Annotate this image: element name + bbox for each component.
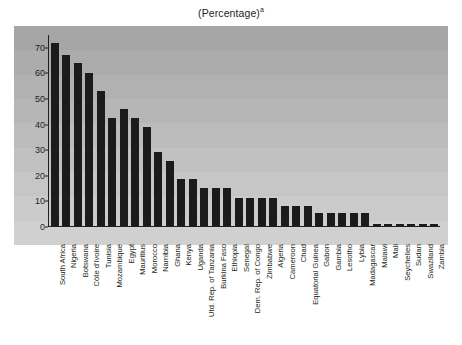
- x-axis-label-slot: Morocco: [141, 244, 153, 344]
- bar-slot: [291, 35, 303, 226]
- chart-figure: (Percentage)a 010203040506070 South Afri…: [0, 0, 462, 345]
- bar[interactable]: [338, 213, 346, 226]
- bar[interactable]: [143, 127, 151, 226]
- x-axis-label-slot: Swaziland: [417, 244, 429, 344]
- x-axis-label-slot: Tunisia: [95, 244, 107, 344]
- x-axis-label-slot: Ghana: [164, 244, 176, 344]
- bar-slot: [176, 35, 188, 226]
- bar-slot: [95, 35, 107, 226]
- x-axis-label-slot: Dem. Rep. of Congo: [245, 244, 257, 344]
- x-axis-label-slot: Lybia: [348, 244, 360, 344]
- y-axis-tick-label: 20: [35, 171, 45, 181]
- bar-slot: [302, 35, 314, 226]
- x-axis-label-slot: Gabon: [314, 244, 326, 344]
- bar-slot: [233, 35, 245, 226]
- y-axis-tick-mark: [45, 73, 48, 74]
- y-axis-tick-mark: [45, 175, 48, 176]
- bar-slot: [61, 35, 73, 226]
- bar-slot: [49, 35, 61, 226]
- bar[interactable]: [430, 224, 438, 226]
- bar[interactable]: [281, 206, 289, 226]
- bar-slot: [394, 35, 406, 226]
- plot-panel: 010203040506070: [14, 26, 448, 245]
- bar[interactable]: [51, 43, 59, 226]
- x-axis-label-slot: Zambia: [429, 244, 441, 344]
- x-axis-label-slot: Botswana: [72, 244, 84, 344]
- y-axis-tick-label: 60: [35, 68, 45, 78]
- bar[interactable]: [384, 224, 392, 226]
- bar-slot: [268, 35, 280, 226]
- chart-title-text: (Percentage): [198, 7, 260, 19]
- x-axis-label-slot: South Africa: [49, 244, 61, 344]
- bar-slot: [371, 35, 383, 226]
- bar[interactable]: [396, 224, 404, 226]
- bar[interactable]: [235, 198, 243, 226]
- bar[interactable]: [246, 198, 254, 226]
- bar[interactable]: [62, 55, 70, 226]
- bar-slot: [187, 35, 199, 226]
- bar-slot: [360, 35, 372, 226]
- bar[interactable]: [361, 213, 369, 226]
- x-axis-label-slot: Lesotho: [337, 244, 349, 344]
- y-axis-tick-mark: [45, 150, 48, 151]
- bar[interactable]: [189, 179, 197, 226]
- bar[interactable]: [373, 224, 381, 226]
- y-axis-tick-mark: [45, 124, 48, 125]
- bar[interactable]: [166, 161, 174, 226]
- bar[interactable]: [419, 224, 427, 226]
- bar-slot: [325, 35, 337, 226]
- bar[interactable]: [327, 213, 335, 226]
- bar-slot: [199, 35, 211, 226]
- y-axis-tick-label: 50: [35, 94, 45, 104]
- x-axis-label-slot: Gambia: [325, 244, 337, 344]
- x-axis-label-slot: Senegal: [233, 244, 245, 344]
- x-axis-label-slot: Mali: [383, 244, 395, 344]
- y-axis-tick-label: 10: [35, 196, 45, 206]
- bar-slot: [164, 35, 176, 226]
- bar-slot: [406, 35, 418, 226]
- bar[interactable]: [407, 224, 415, 226]
- x-axis-label-slot: Seychelles: [394, 244, 406, 344]
- bar-slot: [279, 35, 291, 226]
- bar-slot: [84, 35, 96, 226]
- bar[interactable]: [131, 118, 139, 226]
- bar[interactable]: [315, 213, 323, 226]
- bar-slot: [118, 35, 130, 226]
- y-axis-tick-label: 70: [35, 43, 45, 53]
- bar[interactable]: [120, 109, 128, 226]
- x-axis-label-slot: Egypt: [118, 244, 130, 344]
- x-axis-label-slot: Madagascar: [360, 244, 372, 344]
- x-axis-label-slot: Cameroon: [279, 244, 291, 344]
- x-axis-label-slot: Chad: [291, 244, 303, 344]
- bar[interactable]: [212, 188, 220, 226]
- bar-slot: [348, 35, 360, 226]
- bar[interactable]: [85, 73, 93, 226]
- y-axis-tick-mark: [45, 201, 48, 202]
- bar[interactable]: [269, 198, 277, 226]
- bar[interactable]: [223, 188, 231, 226]
- bar-slot: [210, 35, 222, 226]
- bar-slot: [107, 35, 119, 226]
- bar[interactable]: [154, 152, 162, 226]
- bar[interactable]: [177, 179, 185, 226]
- bar[interactable]: [292, 206, 300, 226]
- x-axis-line: [48, 226, 440, 227]
- x-axis-label-slot: Côte d'Ivoire: [84, 244, 96, 344]
- x-axis-label-slot: Namibia: [153, 244, 165, 344]
- y-axis-tick-label: 40: [35, 120, 45, 130]
- bar[interactable]: [74, 63, 82, 226]
- bar[interactable]: [258, 198, 266, 226]
- bar[interactable]: [200, 188, 208, 226]
- y-axis-tick-label: 30: [35, 145, 45, 155]
- bar[interactable]: [97, 91, 105, 226]
- bar-slot: [141, 35, 153, 226]
- x-axis-label-slot: Nigeria: [61, 244, 73, 344]
- bar-slot: [153, 35, 165, 226]
- bar[interactable]: [350, 213, 358, 226]
- y-axis-tick-mark: [45, 227, 48, 228]
- bar-slot: [72, 35, 84, 226]
- bar-slot: [417, 35, 429, 226]
- bar-slot: [256, 35, 268, 226]
- bar[interactable]: [304, 206, 312, 226]
- bar[interactable]: [108, 118, 116, 226]
